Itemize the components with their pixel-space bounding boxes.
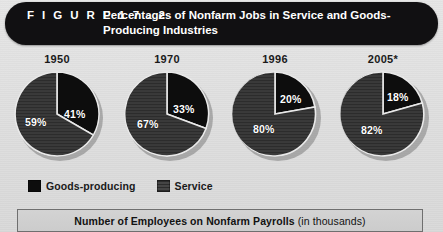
legend-swatch-goods-producing-icon — [28, 180, 41, 192]
legend-label-goods-producing: Goods-producing — [46, 180, 136, 192]
table-header-light: (in thousands) — [298, 215, 366, 227]
pie-year-label: 1996 — [220, 52, 330, 67]
slice-label-goods-producing: 18% — [387, 91, 409, 103]
pie-year-label: 2005* — [328, 52, 438, 67]
slice-label-goods-producing: 41% — [64, 108, 86, 120]
pie-disc — [340, 71, 426, 157]
pie-svg — [124, 71, 210, 157]
figure-title-line-1: Percentages of Nonfarm Jobs in Service a… — [103, 9, 391, 21]
pie-svg — [340, 71, 426, 157]
table-header-text: Number of Employees on Nonfarm Payrolls … — [18, 215, 422, 227]
pie-year-label: 1970 — [112, 52, 222, 67]
pie-chart-1970: 1970 33% 67% — [112, 52, 222, 157]
pie-chart-1996: 1996 20% 80% — [220, 52, 330, 157]
legend-label-service: Service — [175, 180, 213, 192]
pie-disc — [232, 71, 318, 157]
slice-label-goods-producing: 33% — [173, 103, 195, 115]
table-header-bold: Number of Employees on Nonfarm Payrolls — [74, 215, 297, 227]
pie-chart-1950: 1950 41% 59% — [2, 52, 112, 157]
slice-label-service: 59% — [25, 116, 47, 128]
pie-disc — [124, 71, 210, 157]
pie-svg — [14, 71, 100, 157]
figure-page: F I G U R E 1 7 . 2 Percentages of Nonfa… — [0, 0, 443, 232]
pie-year-label: 1950 — [2, 52, 112, 67]
pie-graphic: 41% 59% — [14, 71, 100, 157]
slice-label-service: 67% — [137, 118, 159, 130]
figure-title-bar: F I G U R E 1 7 . 2 Percentages of Nonfa… — [5, 2, 438, 45]
pie-graphic: 33% 67% — [124, 71, 210, 157]
slice-label-service: 82% — [361, 124, 383, 136]
pie-svg — [232, 71, 318, 157]
pie-graphic: 18% 82% — [340, 71, 426, 157]
legend-item-goods-producing: Goods-producing — [28, 180, 136, 192]
legend-item-service: Service — [157, 180, 213, 192]
table-header-bar: Number of Employees on Nonfarm Payrolls … — [17, 209, 423, 232]
figure-title-line-2: Producing Industries — [103, 24, 218, 36]
slice-label-service: 80% — [253, 123, 275, 135]
legend-swatch-service-icon — [157, 180, 170, 192]
pie-disc — [14, 71, 100, 157]
pie-chart-2005: 2005* 18% 82% — [328, 52, 438, 157]
pie-graphic: 20% 80% — [232, 71, 318, 157]
slice-label-goods-producing: 20% — [280, 93, 302, 105]
chart-legend: Goods-producing Service — [28, 180, 227, 192]
figure-title: Percentages of Nonfarm Jobs in Service a… — [103, 8, 429, 37]
